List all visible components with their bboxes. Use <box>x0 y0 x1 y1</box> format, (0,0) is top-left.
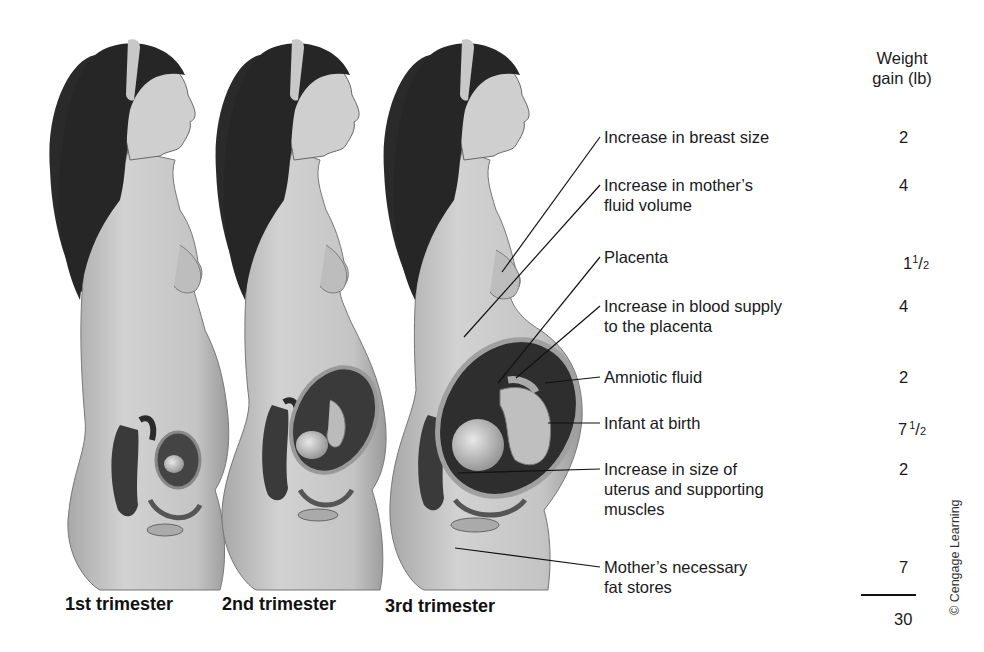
label-uterus: Increase in size of uterus and supportin… <box>604 459 764 519</box>
credit-container: © Cengage Learning <box>948 615 964 652</box>
weight-gain-header-line1: Weight <box>862 48 942 68</box>
value-infant: 71/2 <box>898 415 926 441</box>
figure-2nd-trimester <box>216 39 394 590</box>
value-uterus: 2 <box>899 459 908 479</box>
weight-gain-header-line2: gain (lb) <box>862 68 942 88</box>
label-amniotic-fluid: Amniotic fluid <box>604 367 702 387</box>
figure-3rd-trimester <box>384 39 607 590</box>
label-placenta: Placenta <box>604 247 668 267</box>
label-blood-supply: Increase in blood supply to the placenta <box>604 296 782 336</box>
value-breast-size: 2 <box>899 127 908 147</box>
value-placenta: 11/2 <box>903 249 929 275</box>
value-total: 30 <box>894 609 912 629</box>
caption-1st-trimester: 1st trimester <box>65 594 173 615</box>
caption-2nd-trimester: 2nd trimester <box>222 594 336 615</box>
trimester-illustrations <box>0 0 984 652</box>
value-blood-supply: 4 <box>899 296 908 316</box>
label-infant: Infant at birth <box>604 413 700 433</box>
pregnancy-weight-gain-diagram: 1st trimester 2nd trimester 3rd trimeste… <box>0 0 984 652</box>
value-fluid-volume: 4 <box>899 175 908 195</box>
value-fat-stores: 7 <box>899 557 908 577</box>
figure-1st-trimester <box>49 39 228 590</box>
weight-gain-header: Weight gain (lb) <box>862 48 942 88</box>
total-rule <box>861 594 916 596</box>
label-fluid-volume: Increase in mother’s fluid volume <box>604 175 753 215</box>
label-breast-size: Increase in breast size <box>604 127 769 147</box>
label-fat-stores: Mother’s necessary fat stores <box>604 557 747 597</box>
value-amniotic-fluid: 2 <box>899 367 908 387</box>
caption-3rd-trimester: 3rd trimester <box>385 596 495 617</box>
copyright-credit: © Cengage Learning <box>948 499 962 615</box>
